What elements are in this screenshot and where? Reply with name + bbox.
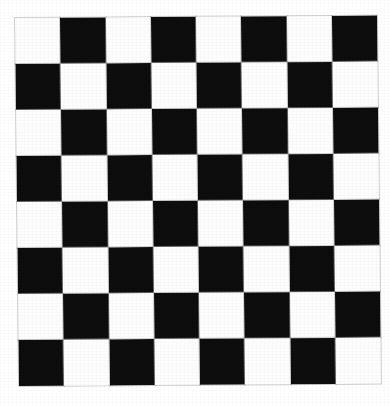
board-square-1-3 bbox=[105, 17, 151, 63]
board-square-2-5 bbox=[197, 62, 243, 108]
board-square-6-8 bbox=[334, 246, 380, 292]
board-square-7-4 bbox=[154, 293, 200, 339]
board-square-4-6 bbox=[243, 154, 289, 200]
board-square-3-1 bbox=[16, 110, 62, 156]
board-square-3-3 bbox=[107, 109, 153, 155]
board-square-5-7 bbox=[289, 200, 335, 246]
board-square-8-3 bbox=[109, 339, 155, 385]
board-square-6-3 bbox=[108, 247, 154, 293]
board-square-7-2 bbox=[63, 293, 109, 339]
board-square-2-7 bbox=[287, 62, 333, 108]
board-square-6-2 bbox=[63, 247, 109, 293]
board-square-6-4 bbox=[153, 247, 199, 293]
board-square-4-1 bbox=[17, 156, 63, 202]
board-square-5-4 bbox=[153, 201, 199, 247]
board-square-1-7 bbox=[286, 16, 332, 62]
board-square-1-1 bbox=[15, 18, 61, 64]
board-square-3-6 bbox=[242, 108, 288, 154]
board-square-8-2 bbox=[64, 339, 110, 385]
board-square-7-5 bbox=[199, 292, 245, 338]
board-square-5-8 bbox=[334, 200, 380, 246]
board-square-8-1 bbox=[19, 340, 65, 386]
board-square-2-3 bbox=[106, 63, 152, 109]
board-square-7-3 bbox=[109, 293, 155, 339]
board-square-6-7 bbox=[289, 246, 335, 292]
board-square-8-8 bbox=[335, 338, 381, 384]
board-square-2-2 bbox=[61, 63, 107, 109]
board-square-6-1 bbox=[18, 248, 64, 294]
board-square-5-6 bbox=[243, 200, 289, 246]
board-square-4-2 bbox=[62, 155, 108, 201]
board-square-1-6 bbox=[241, 16, 287, 62]
checkerboard-grid bbox=[15, 16, 381, 386]
board-square-6-6 bbox=[244, 246, 290, 292]
board-square-2-1 bbox=[16, 64, 62, 110]
board-square-3-2 bbox=[61, 109, 107, 155]
board-square-1-2 bbox=[60, 17, 106, 63]
board-square-4-7 bbox=[288, 154, 334, 200]
board-square-7-6 bbox=[244, 292, 290, 338]
board-square-3-7 bbox=[288, 108, 334, 154]
board-square-4-4 bbox=[152, 155, 198, 201]
board-square-8-4 bbox=[154, 339, 200, 385]
board-square-7-1 bbox=[18, 294, 64, 340]
board-square-5-5 bbox=[198, 200, 244, 246]
board-square-3-8 bbox=[333, 108, 379, 154]
board-square-3-4 bbox=[152, 109, 198, 155]
board-square-5-3 bbox=[108, 201, 154, 247]
board-square-4-5 bbox=[198, 154, 244, 200]
board-square-6-5 bbox=[199, 246, 245, 292]
checkerboard-image bbox=[0, 0, 390, 406]
board-square-8-7 bbox=[290, 338, 336, 384]
board-square-2-8 bbox=[332, 62, 378, 108]
board-square-5-2 bbox=[62, 201, 108, 247]
board-square-5-1 bbox=[17, 202, 63, 248]
board-square-3-5 bbox=[197, 108, 243, 154]
board-square-7-8 bbox=[335, 292, 381, 338]
board-square-1-8 bbox=[332, 16, 378, 62]
board-square-4-3 bbox=[107, 155, 153, 201]
board-rotation-wrapper bbox=[15, 16, 381, 386]
board-square-1-4 bbox=[151, 17, 197, 63]
board-square-2-6 bbox=[242, 62, 288, 108]
board-square-1-5 bbox=[196, 16, 242, 62]
board-square-4-8 bbox=[333, 154, 379, 200]
board-square-7-7 bbox=[290, 292, 336, 338]
board-square-8-6 bbox=[245, 338, 291, 384]
board-square-8-5 bbox=[200, 338, 246, 384]
board-square-2-4 bbox=[151, 63, 197, 109]
